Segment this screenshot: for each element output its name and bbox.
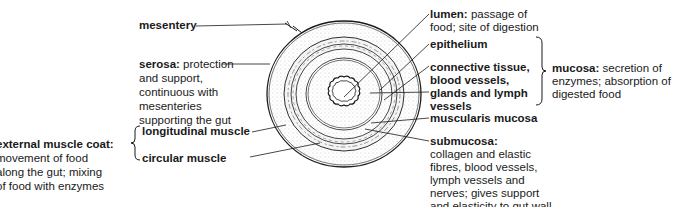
label-lumen: lumen: passage of food; site of digestio… [430, 8, 539, 34]
mucosa-brace [536, 37, 546, 105]
epithelium-layer [328, 76, 360, 106]
label-submucosa: submucosa: collagen and elastic fibres, … [430, 135, 551, 207]
label-external-muscle-coat: external muscle coat: movement of food a… [0, 137, 114, 193]
label-connective-tissue: connective tissue, blood vessels, glands… [430, 61, 530, 113]
mesentery-attachment [285, 21, 302, 33]
label-serosa: serosa: protection and support, continuo… [139, 57, 234, 127]
label-epithelium: epithelium [430, 38, 488, 51]
label-mucosa: mucosa: secretion of enzymes; absorption… [552, 62, 671, 101]
label-longitudinal-muscle: longitudinal muscle [142, 125, 250, 138]
label-muscularis-mucosa: muscularis mucosa [430, 112, 537, 125]
label-mesentery: mesentery [139, 19, 197, 32]
label-circular-muscle: circular muscle [142, 152, 226, 165]
external-muscle-brace [131, 126, 140, 160]
